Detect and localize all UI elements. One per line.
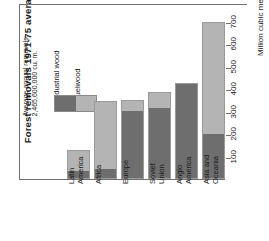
segment-fuelwood — [149, 93, 170, 107]
value-axis: Million cubic meters 1002003004005006007… — [226, 0, 269, 241]
chart-root: Forest removals 1971-75 average Average … — [0, 0, 269, 241]
x-axis-label-europe: Europe — [122, 130, 131, 184]
x-axis-label-latin-america: Latin America — [68, 130, 85, 184]
axis-title: Million cubic meters — [256, 0, 265, 56]
x-axis-label-africa: Africa — [95, 130, 104, 184]
segment-fuelwood — [122, 101, 143, 111]
axis-tick-label-200: 200 — [229, 127, 238, 140]
axis-tick-label-100: 100 — [229, 150, 238, 163]
axis-tick-label-500: 500 — [229, 60, 238, 73]
segment-fuelwood — [203, 23, 224, 134]
axis-tick-label-700: 700 — [229, 15, 238, 28]
axis-tick-label-400: 400 — [229, 82, 238, 95]
axis-tick-label-300: 300 — [229, 105, 238, 118]
axis-tick-label-600: 600 — [229, 37, 238, 50]
x-axis-label-anglo-america: Anglo America — [176, 130, 193, 184]
x-axis-label-asia-and-oceania: Asia and Oceania — [203, 130, 220, 184]
x-axis-label-soviet-union: Soviet Union — [149, 130, 166, 184]
